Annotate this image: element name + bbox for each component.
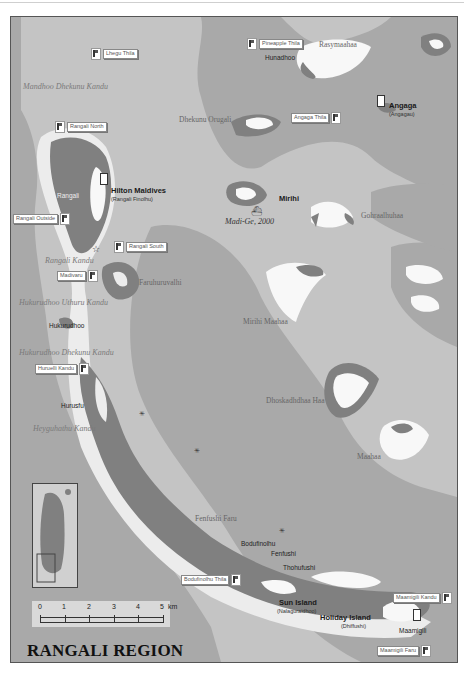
channel-label-hukurudhoo-uthuru-kandu: Hukurudhoo Uthuru Kandu — [19, 299, 108, 307]
resort-label-angaga: Angaga — [389, 102, 417, 110]
map-title: RANGALI REGION — [27, 641, 183, 661]
resort-sub-hilton-maldives: (Rangali Finolhu) — [111, 197, 153, 203]
dive-site-label: Maamigili Faru — [377, 646, 419, 656]
dive-site-pineapple-thila[interactable]: Pineapple Thila — [247, 38, 303, 50]
inset-locator-map — [32, 483, 78, 588]
dive-flag-icon — [331, 112, 341, 124]
dive-site-maamigili-faru[interactable]: Maamigili Faru — [377, 645, 431, 657]
channel-label-heyguhathu-kandu: Heyguhathu Kandu — [33, 425, 95, 433]
wreck-icon-madi-ge: ⛴ — [251, 206, 262, 216]
dive-flag-icon — [114, 241, 124, 253]
reef-label-faruhuruvalhi: Faruhuruvalhi — [139, 279, 182, 287]
reef-label-dhekunu-orugali: Dhekunu Orugali — [179, 116, 231, 124]
dive-site-label: Madivaru — [57, 271, 86, 281]
lighthouse-icon-hilton — [100, 173, 108, 185]
dive-flag-icon — [88, 270, 98, 282]
dive-flag-icon — [91, 48, 101, 60]
dive-flag-icon — [79, 363, 89, 375]
dive-site-angaga-thila[interactable]: Angaga Thila — [291, 112, 341, 124]
reef-label-mirihi-maahaa: Mirihi Maahaa — [243, 318, 288, 326]
reef-label-rasymaahaa: Rasymaahaa — [319, 41, 357, 49]
star-icon-reef-3: ✳ — [279, 527, 285, 534]
channel-label-rangali-kandu: Rangali Kandu — [45, 257, 94, 265]
island-label-rangali: Rangali — [57, 193, 79, 200]
channel-label-hukurudhoo-dhekunu-kandu: Hukurudhoo Dhekunu Kandu — [19, 349, 114, 357]
dive-flag-icon — [442, 592, 452, 604]
dive-site-label: Maamigili Kandu — [393, 593, 440, 603]
island-label-fenfushi: Fenfushi — [271, 551, 296, 558]
resort-sub-holiday-island: (Dhiffushi) — [341, 624, 366, 630]
dive-site-label: Bodufinolhu Thila — [181, 575, 229, 585]
dive-site-label: Angaga Thila — [291, 113, 329, 123]
island-label-hunadhoo: Hunadhoo — [265, 55, 295, 62]
reef-label-gohraalhuhaa: Gohraalhuhaa — [361, 212, 403, 220]
star-icon-reef-2: ✳ — [194, 447, 200, 454]
wreck-label-madi-ge: Madi-Ge, 2000 — [225, 218, 274, 226]
dive-site-label: Huruelli Kandu — [35, 364, 77, 374]
island-label-hukurudhoo: Hukurudhoo — [49, 323, 84, 330]
island-label-bodufinolhu: Bodufinolhu — [241, 541, 275, 548]
scale-tick-5: 5 — [160, 603, 164, 610]
island-label-maamigili: Maamigili — [399, 628, 426, 635]
star-icon-reef-1: ✳ — [139, 410, 145, 417]
dive-flag-icon — [231, 574, 241, 586]
dive-site-label: Lhegu Thila — [103, 49, 138, 59]
resort-label-sun-island: Sun Island — [279, 599, 317, 607]
dive-site-bodufinolhu-thila[interactable]: Bodufinolhu Thila — [181, 574, 241, 586]
dive-flag-icon — [55, 121, 65, 133]
star-icon-rangali-south: ☆ — [92, 245, 100, 254]
inset-atoll-shape — [33, 484, 77, 587]
scale-tick-3: 3 — [112, 603, 116, 610]
scale-tick-4: 4 — [136, 603, 140, 610]
reef-label-dhoskadhdhaa-haa: Dhoskadhdhaa Haa — [266, 397, 325, 405]
scale-unit: km — [168, 603, 177, 610]
dive-site-label: Rangali North — [67, 122, 107, 132]
dive-site-maamigili-kandu[interactable]: Maamigili Kandu — [393, 592, 452, 604]
scale-tick-1: 1 — [62, 603, 66, 610]
dive-site-label: Rangali Outside — [13, 214, 58, 224]
scale-bar-line — [40, 617, 164, 623]
dive-site-rangali-outside[interactable]: Rangali Outside — [13, 213, 70, 225]
resort-label-mirihi: Mirihi — [279, 195, 299, 203]
resort-label-hilton-maldives: Hilton Maldives — [111, 187, 166, 195]
dive-site-rangali-north[interactable]: Rangali North — [55, 121, 107, 133]
scale-tick-2: 2 — [87, 603, 91, 610]
dive-site-lhegu-thila[interactable]: Lhegu Thila — [91, 48, 138, 60]
scale-tick-0: 0 — [38, 603, 42, 610]
dive-site-rangali-south[interactable]: Rangali South — [114, 241, 167, 253]
dive-site-label: Pineapple Thila — [259, 39, 303, 49]
scale-bar: 0 1 2 3 4 5 km — [32, 601, 170, 627]
dive-site-huruelli-kandu[interactable]: Huruelli Kandu — [35, 363, 89, 375]
island-label-thohufushi: Thohufushi — [283, 565, 315, 572]
dive-site-label: Rangali South — [126, 242, 167, 252]
dive-flag-icon — [247, 38, 257, 50]
resort-sub-sun-island: (Nalaguraidhoo) — [277, 609, 316, 615]
map-frame[interactable]: Mandhoo Dhekunu Kandu Rangali Kandu Huku… — [10, 16, 458, 663]
lighthouse-icon-maamigili — [413, 609, 421, 621]
reef-label-fenfushi-faru: Fenfushi Faru — [195, 515, 237, 523]
top-border-line — [0, 2, 464, 3]
resort-sub-angaga: (Angagau) — [389, 112, 415, 118]
resort-label-holiday-island: Holiday Island — [320, 614, 371, 622]
reef-label-maahaa: Maahaa — [357, 453, 381, 461]
dive-site-madivaru[interactable]: Madivaru — [57, 270, 98, 282]
lighthouse-icon-angaga — [377, 95, 385, 107]
island-label-hurusfu: Hurusfu — [61, 403, 84, 410]
dive-flag-icon — [60, 213, 70, 225]
channel-label-mandhoo-dhekunu-kandu: Mandhoo Dhekunu Kandu — [23, 83, 108, 91]
dive-flag-icon — [421, 645, 431, 657]
